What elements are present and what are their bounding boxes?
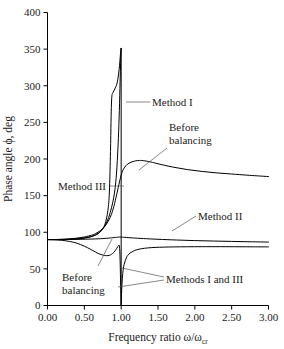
y-tick-label: 0 [35, 299, 41, 311]
x-tick-label: 0.50 [75, 311, 95, 323]
annotation-before-balancing-upper-line1: Before [169, 121, 199, 133]
x-tick-label: 1.00 [112, 311, 132, 323]
x-axis-title-main: Frequency ratio ω/ω [108, 331, 202, 344]
x-tick-label: 3.00 [259, 311, 279, 323]
annotation-before-balancing-upper-line2: balancing [169, 134, 212, 146]
y-tick-label: 150 [24, 189, 41, 201]
y-tick-label: 350 [24, 43, 41, 55]
y-tick-label: 50 [30, 263, 42, 275]
y-tick-label: 250 [24, 116, 41, 128]
y-tick-label: 100 [24, 226, 41, 238]
y-tick-label: 200 [24, 153, 41, 165]
x-tick-label: 0.00 [38, 311, 58, 323]
x-tick-label: 2.00 [185, 311, 205, 323]
annotation-before-balancing-lower-line1: Before [62, 271, 92, 283]
annotation-before-balancing-lower-line2: balancing [62, 284, 105, 296]
x-tick-label: 2.50 [222, 311, 242, 323]
phase-angle-chart: 050100150200250300350400 0.000.501.001.5… [0, 0, 284, 349]
annotation-method-2: Method II [198, 210, 243, 222]
y-axis-title: Phase angle ϕ, deg [2, 116, 15, 202]
annotation-method-1: Method I [152, 96, 193, 108]
x-tick-label: 1.50 [148, 311, 168, 323]
y-tick-label: 400 [24, 6, 41, 18]
y-tick-label: 300 [24, 80, 41, 92]
x-axis-title-subscript: cr [202, 337, 208, 346]
chart-canvas: 050100150200250300350400 0.000.501.001.5… [0, 0, 284, 349]
annotation-method-3: Method III [58, 180, 106, 192]
annotation-methods-1-and-3: Methods I and III [166, 273, 244, 285]
